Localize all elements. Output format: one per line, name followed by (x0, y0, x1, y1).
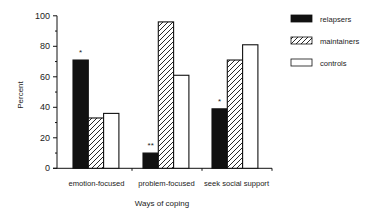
legend-swatch-relapsers (291, 15, 312, 22)
legend: relapsersmaintainerscontrols (291, 15, 359, 68)
category-label: problem-focused (138, 179, 195, 188)
bar-relapsers-seek-social-support (212, 109, 227, 168)
category-label: seek social support (204, 179, 270, 188)
y-axis-label: Percent (16, 80, 25, 108)
y-tick-label: 40 (40, 102, 50, 112)
bar-maintainers-problem-focused (158, 22, 173, 168)
significance-marker: * (218, 97, 221, 106)
category-labels: emotion-focusedproblem-focusedseek socia… (68, 179, 269, 188)
bar-controls-seek-social-support (243, 45, 258, 169)
y-tick-label: 80 (40, 41, 50, 51)
bars: **** (73, 22, 258, 168)
bar-maintainers-emotion-focused (88, 118, 103, 168)
y-axis: 020406080100 (35, 11, 57, 174)
y-tick-label: 20 (40, 133, 50, 143)
significance-marker: * (79, 48, 82, 57)
y-tick-label: 60 (40, 72, 50, 82)
bar-relapsers-problem-focused (143, 153, 158, 168)
y-tick-label: 0 (45, 163, 50, 173)
x-axis-label: Ways of coping (135, 199, 189, 208)
bar-relapsers-emotion-focused (73, 60, 88, 168)
legend-swatch-maintainers (291, 37, 312, 44)
significance-marker: ** (148, 141, 154, 150)
legend-label-maintainers: maintainers (320, 37, 359, 46)
legend-label-relapsers: relapsers (320, 15, 351, 24)
legend-label-controls: controls (320, 59, 347, 68)
y-tick-label: 100 (35, 11, 50, 21)
legend-swatch-controls (291, 59, 312, 66)
bar-controls-problem-focused (174, 75, 189, 168)
bar-chart: Percent 020406080100 **** emotion-focuse… (0, 0, 380, 210)
category-label: emotion-focused (68, 179, 124, 188)
bar-controls-emotion-focused (104, 113, 119, 168)
bar-maintainers-seek-social-support (227, 60, 242, 168)
